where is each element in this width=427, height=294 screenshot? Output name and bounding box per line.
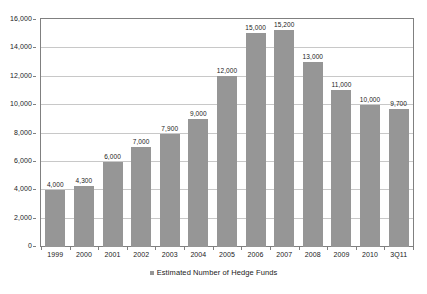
bar-value-label: 12,000 [208, 67, 246, 75]
y-axis-tick [33, 189, 36, 190]
bar[interactable] [360, 105, 380, 248]
x-axis-tick-label: 1999 [41, 250, 70, 259]
x-axis-tick [327, 247, 328, 250]
y-axis-tick [33, 133, 36, 134]
x-axis-tick [270, 247, 271, 250]
legend-label: Estimated Number of Hedge Funds [157, 268, 278, 278]
x-axis-labels: 1999200020012002200320042005200620072008… [41, 250, 413, 262]
x-axis-tick-label: 2010 [356, 250, 385, 259]
x-axis-tick [41, 247, 42, 250]
bar-value-label: 9,700 [380, 100, 418, 108]
y-axis-tick-label: 2,000 [14, 214, 32, 222]
x-axis-tick [213, 247, 214, 250]
x-axis-tick [155, 247, 156, 250]
bar-slot: 7,900 [160, 19, 180, 247]
bar[interactable] [103, 162, 123, 248]
x-axis-tick-label: 2006 [241, 250, 270, 259]
y-axis-tick [33, 47, 36, 48]
x-axis-tick-label: 2007 [270, 250, 299, 259]
x-axis-tick [413, 247, 414, 250]
bar[interactable] [131, 147, 151, 247]
x-axis-tick [299, 247, 300, 250]
x-axis-tick-label: 2005 [213, 250, 242, 259]
x-axis-tick [384, 247, 385, 250]
x-axis-tick-label: 2003 [155, 250, 184, 259]
bar-value-label: 4,300 [65, 177, 103, 185]
bar-value-label: 9,000 [179, 110, 217, 118]
bar-value-label: 11,000 [322, 81, 360, 89]
bar-series: 4,0004,3006,0007,0007,9009,00012,00015,0… [41, 19, 413, 247]
x-axis-tick [241, 247, 242, 250]
x-axis-tick-label: 3Q11 [384, 250, 413, 259]
x-axis-tick [184, 247, 185, 250]
bar-slot: 13,000 [303, 19, 323, 247]
y-axis-tick-label: 6,000 [14, 157, 32, 165]
y-axis-tick-label: 8,000 [14, 129, 32, 137]
bar[interactable] [74, 186, 94, 247]
bar-slot: 9,700 [389, 19, 409, 247]
y-axis-tick [33, 161, 36, 162]
y-axis-tick [33, 218, 36, 219]
bar[interactable] [331, 90, 351, 247]
bar[interactable] [217, 76, 237, 247]
y-axis-tick-label: 4,000 [14, 185, 32, 193]
bar[interactable] [246, 33, 266, 247]
bar-slot: 10,000 [360, 19, 380, 247]
bar[interactable] [188, 119, 208, 247]
y-axis-labels: 02,0004,0006,0008,00010,00012,00014,0001… [0, 18, 36, 247]
bar[interactable] [45, 190, 65, 247]
bar-value-label: 6,000 [94, 153, 132, 161]
bar-slot: 11,000 [331, 19, 351, 247]
x-axis-tick [70, 247, 71, 250]
x-axis-tick-label: 2004 [184, 250, 213, 259]
bar[interactable] [160, 134, 180, 247]
x-axis-tick-label: 2000 [70, 250, 99, 259]
y-axis-tick-label: 0 [28, 242, 32, 250]
y-axis-tick [33, 19, 36, 20]
x-axis-tick-label: 2008 [299, 250, 328, 259]
x-axis-tick-label: 2009 [327, 250, 356, 259]
bar[interactable] [274, 30, 294, 247]
y-axis-tick [33, 246, 36, 247]
bar-value-label: 15,200 [265, 21, 303, 29]
legend-swatch-icon [150, 271, 154, 275]
bar-slot: 9,000 [188, 19, 208, 247]
x-axis-tick-label: 2002 [127, 250, 156, 259]
y-axis-tick-label: 14,000 [10, 43, 32, 51]
y-axis-tick [33, 76, 36, 77]
bar[interactable] [303, 62, 323, 247]
x-axis-tick [98, 247, 99, 250]
x-axis-tick [127, 247, 128, 250]
y-axis-tick-label: 16,000 [10, 15, 32, 23]
bar-slot: 4,000 [45, 19, 65, 247]
x-axis-tick [356, 247, 357, 250]
chart-legend: Estimated Number of Hedge Funds [0, 268, 427, 278]
bar-value-label: 7,000 [122, 138, 160, 146]
bar-slot: 6,000 [103, 19, 123, 247]
bar-slot: 7,000 [131, 19, 151, 247]
y-axis-tick-label: 10,000 [10, 100, 32, 108]
bar-slot: 15,000 [246, 19, 266, 247]
bar-value-label: 7,900 [151, 125, 189, 133]
bar[interactable] [389, 109, 409, 247]
y-axis-tick-label: 12,000 [10, 72, 32, 80]
bar-slot: 15,200 [274, 19, 294, 247]
bar-value-label: 13,000 [294, 53, 332, 61]
bar-slot: 12,000 [217, 19, 237, 247]
x-axis-tick-label: 2001 [98, 250, 127, 259]
bar-slot: 4,300 [74, 19, 94, 247]
y-axis-tick [33, 104, 36, 105]
hedge-funds-bar-chart: 02,0004,0006,0008,00010,00012,00014,0001… [0, 0, 427, 294]
